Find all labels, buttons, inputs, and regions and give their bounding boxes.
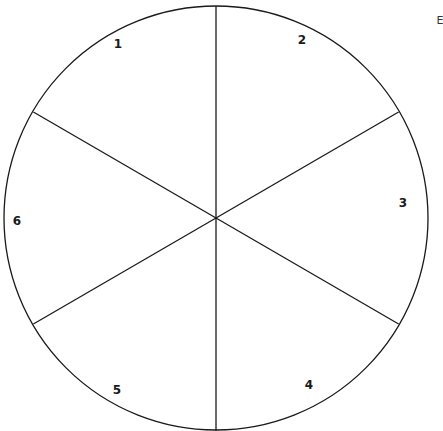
- sector-label-6: 6: [13, 214, 21, 228]
- edge-label: E: [437, 14, 443, 27]
- sector-label-5: 5: [113, 383, 121, 397]
- sector-label-3: 3: [399, 196, 407, 210]
- sector-label-2: 2: [298, 33, 306, 47]
- sector-label-1: 1: [114, 37, 122, 51]
- sector-label-4: 4: [305, 378, 313, 392]
- sector-diagram: 1 2 3 4 5 6 E: [0, 0, 443, 431]
